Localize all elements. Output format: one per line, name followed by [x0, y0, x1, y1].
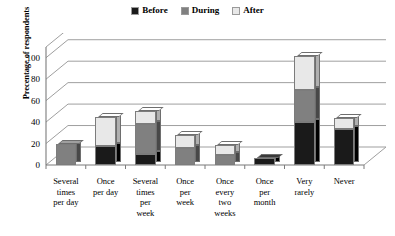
bar-segment-after[interactable]	[334, 118, 355, 129]
legend-label-during: During	[192, 6, 220, 15]
bar-segment-after[interactable]	[215, 145, 236, 156]
bar-segment-side	[116, 143, 121, 162]
x-axis-label-line: per day	[42, 197, 90, 208]
bar-group[interactable]	[95, 25, 116, 165]
bar-segment-side	[116, 114, 121, 143]
y-tick-label: 80	[31, 75, 40, 84]
bar-group[interactable]	[215, 25, 236, 165]
bar-segment-before[interactable]	[135, 154, 156, 165]
bar-segment-after[interactable]	[175, 135, 196, 148]
chart-container: Before During After Precentage of respon…	[0, 0, 395, 236]
bar-group[interactable]	[135, 25, 156, 165]
legend-swatch-during	[181, 7, 189, 15]
y-tick-label: 60	[31, 96, 40, 105]
bar-segment-after[interactable]	[95, 117, 116, 146]
legend-swatch-before	[131, 7, 139, 15]
bar-segment-during[interactable]	[135, 124, 156, 154]
bar-segment-during[interactable]	[56, 144, 77, 165]
bar-segment-side	[315, 87, 320, 119]
legend-label-before: Before	[142, 6, 167, 15]
legend-item-during: During	[181, 6, 220, 15]
y-axis-ticks: 020406080100	[18, 40, 40, 166]
bar-top-face	[257, 154, 282, 158]
y-tick-label: 20	[31, 139, 40, 148]
x-axis-label-line: Never	[320, 176, 368, 187]
plot-area	[42, 33, 390, 173]
bars-layer	[42, 33, 390, 173]
x-axis-labels: Severaltimesper dayOnceper daySeveraltim…	[42, 176, 390, 234]
bar-segment-before[interactable]	[95, 146, 116, 165]
bar-group[interactable]	[175, 25, 196, 165]
x-axis-label-line: rarely	[281, 187, 329, 198]
x-axis-label-line: week	[122, 208, 170, 219]
x-axis-label-line: month	[241, 197, 289, 208]
bar-segment-after[interactable]	[294, 56, 315, 90]
bar-segment-side	[156, 151, 161, 162]
bar-segment-side	[235, 152, 240, 162]
bar-group[interactable]	[334, 25, 355, 165]
bar-segment-during[interactable]	[175, 148, 196, 165]
bar-top-face	[297, 52, 322, 56]
bar-group[interactable]	[56, 25, 77, 165]
x-axis-label: Never	[320, 176, 368, 187]
legend-item-after: After	[232, 6, 263, 15]
bar-top-face	[217, 141, 242, 145]
bar-segment-during[interactable]	[215, 155, 236, 165]
bar-segment-before[interactable]	[254, 158, 275, 166]
legend-label-after: After	[243, 6, 263, 15]
legend-swatch-after	[232, 7, 240, 15]
bar-segment-side	[315, 119, 320, 162]
bar-segment-before[interactable]	[294, 122, 315, 165]
bar-top-face	[98, 113, 123, 117]
bar-segment-side	[195, 145, 200, 162]
y-tick-label: 40	[31, 118, 40, 127]
bar-segment-after[interactable]	[135, 111, 156, 124]
bar-group[interactable]	[254, 25, 275, 165]
y-tick-label: 0	[36, 161, 41, 170]
bar-segment-side	[156, 121, 161, 151]
bar-segment-side	[315, 53, 320, 87]
chart-legend: Before During After	[0, 6, 395, 15]
y-tick-label: 100	[27, 53, 41, 62]
bar-top-face	[58, 140, 83, 144]
bar-group[interactable]	[294, 25, 315, 165]
bar-segment-side	[354, 126, 359, 162]
bar-segment-during[interactable]	[294, 90, 315, 122]
bar-segment-before[interactable]	[334, 129, 355, 165]
legend-item-before: Before	[131, 6, 167, 15]
x-axis-label-line: weeks	[201, 208, 249, 219]
